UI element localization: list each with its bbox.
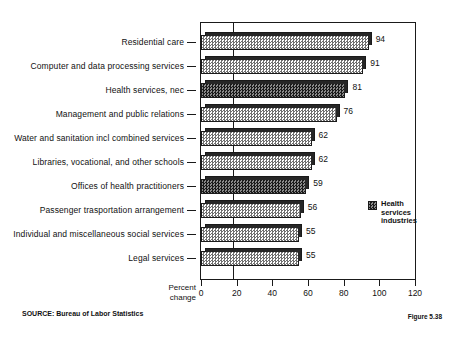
bar-side-face [311, 128, 315, 141]
x-axis-tick [308, 280, 309, 286]
category-label: Management and public relations [56, 102, 196, 126]
bar-top-face [205, 56, 365, 60]
x-axis-tick-label: 80 [339, 288, 348, 298]
category-label-column: Residential careComputer and data proces… [0, 22, 196, 280]
category-label: Water and sanitation incl combined servi… [14, 126, 196, 150]
bar-side-face [300, 200, 304, 213]
x-axis-tick [237, 280, 238, 286]
source-note: SOURCE: Bureau of Labor Statistics [22, 310, 143, 317]
bar-row: 55 [201, 247, 415, 271]
x-axis-tick [344, 280, 345, 286]
bar-top-face [205, 128, 314, 132]
category-tick-dash [187, 162, 196, 163]
bar-top-face [205, 200, 303, 204]
category-label: Health services, nec [105, 78, 196, 102]
bar-top-face [205, 152, 314, 156]
category-label-text: Management and public relations [56, 109, 184, 119]
category-tick-dash [187, 114, 196, 115]
x-axis-tick [201, 280, 202, 286]
category-label: Individual and miscellaneous social serv… [13, 222, 196, 246]
category-label: Residential care [121, 30, 196, 54]
bar-value-label: 91 [370, 58, 379, 68]
bar [201, 203, 301, 218]
category-label-text: Water and sanitation incl combined servi… [14, 133, 184, 143]
bar [201, 131, 312, 146]
bar-row: 91 [201, 55, 415, 79]
x-axis-tick [415, 280, 416, 286]
bar-top-face [205, 104, 339, 108]
legend: Health services industries [368, 200, 417, 226]
category-tick-dash [187, 138, 196, 139]
category-tick-dash [187, 66, 196, 67]
bar-top-face [205, 224, 301, 228]
category-label: Legal services [128, 246, 196, 270]
x-axis-tick-label: 120 [408, 288, 422, 298]
x-axis-tick-label: 100 [372, 288, 386, 298]
category-label-text: Residential care [121, 37, 184, 47]
figure-container: Residential careComputer and data proces… [0, 0, 454, 337]
cropped-title-sliver [150, 0, 340, 6]
bar-side-face [305, 176, 309, 189]
category-label-text: Passenger trasportation arrangement [40, 205, 184, 215]
bar-value-label: 94 [376, 34, 385, 44]
x-axis: 020406080100120 [200, 280, 417, 304]
category-label-text: Computer and data processing services [31, 61, 184, 71]
x-axis-tick-label: 40 [268, 288, 277, 298]
category-label: Offices of health practitioners [71, 174, 196, 198]
category-label-text: Legal services [128, 253, 184, 263]
category-label-text: Health services, nec [105, 85, 184, 95]
category-label-text: Individual and miscellaneous social serv… [13, 229, 184, 239]
legend-label-health-services-industries: Health services industries [381, 200, 417, 226]
category-label-text: Libraries, vocational, and other schools [33, 157, 184, 167]
bar-value-label: 55 [306, 250, 315, 260]
bar-side-face [368, 32, 372, 45]
category-label: Libraries, vocational, and other schools [33, 150, 196, 174]
bar-value-label: 55 [306, 226, 315, 236]
bar [201, 35, 369, 50]
bar-row: 55 [201, 223, 415, 247]
category-tick-dash [187, 42, 196, 43]
legend-swatch-health-services-industries [368, 201, 377, 210]
bar-value-label: 62 [319, 154, 328, 164]
bar [201, 179, 306, 194]
x-axis-tick-label: 20 [232, 288, 241, 298]
category-tick-dash [187, 258, 196, 259]
figure-number: Figure 5.38 [408, 313, 442, 320]
bar-top-face [205, 176, 308, 180]
category-tick-dash [187, 234, 196, 235]
bar [201, 59, 363, 74]
category-tick-dash [187, 210, 196, 211]
x-axis-title: Percent change [150, 283, 196, 302]
bar-side-face [336, 104, 340, 117]
bar-row: 94 [201, 31, 415, 55]
x-axis-tick-label: 60 [303, 288, 312, 298]
bar-side-face [344, 80, 348, 93]
category-tick-dash [187, 90, 196, 91]
bar-row: 62 [201, 151, 415, 175]
x-axis-tick-label: 0 [199, 288, 204, 298]
bar-top-face [205, 80, 347, 84]
category-label: Computer and data processing services [31, 54, 196, 78]
bar [201, 227, 299, 242]
bar-series: 94918176626259565555 [201, 23, 415, 279]
x-axis-title-line2: change [150, 293, 196, 303]
bar-row: 76 [201, 103, 415, 127]
bar-top-face [205, 32, 371, 36]
bar [201, 155, 312, 170]
bar [201, 251, 299, 266]
category-label: Passenger trasportation arrangement [40, 198, 196, 222]
category-tick-dash [187, 186, 196, 187]
bar-row: 59 [201, 175, 415, 199]
bar-value-label: 56 [308, 202, 317, 212]
bar-side-face [298, 248, 302, 261]
x-axis-tick [379, 280, 380, 286]
bar-value-label: 81 [352, 82, 361, 92]
bar [201, 107, 337, 122]
bar-side-face [362, 56, 366, 69]
bar-value-label: 62 [319, 130, 328, 140]
bar [201, 83, 345, 98]
bar-value-label: 76 [344, 106, 353, 116]
bar-top-face [205, 248, 301, 252]
bar-row: 81 [201, 79, 415, 103]
x-axis-tick [272, 280, 273, 286]
